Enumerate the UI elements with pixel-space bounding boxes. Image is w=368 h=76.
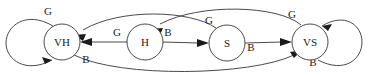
edge-h-to-vh <box>80 38 127 46</box>
edge-label-vh-self: G <box>44 5 52 17</box>
node-vs[interactable]: VS <box>292 24 328 60</box>
vh-to-vs-path <box>74 55 294 72</box>
node-h-label: H <box>141 36 149 48</box>
node-vh-label: VH <box>54 36 70 48</box>
edge-vh-to-vs <box>74 50 302 72</box>
state-transition-diagram: G G B G B B G <box>0 0 368 76</box>
node-s[interactable]: S <box>209 25 245 61</box>
h-to-s-path <box>163 42 199 43</box>
node-vs-label: VS <box>303 36 317 48</box>
vs-to-h-path <box>160 9 301 25</box>
node-vh[interactable]: VH <box>44 24 80 60</box>
edge-label-vh-to-vs: B <box>82 53 89 65</box>
s-to-vs-arrowhead <box>280 38 292 46</box>
node-s-label: S <box>224 37 230 49</box>
edge-h-to-s <box>163 39 209 47</box>
edge-label-h-to-s: B <box>164 26 171 38</box>
h-to-s-arrowhead <box>197 39 209 47</box>
edge-label-h-to-vh: G <box>113 26 121 38</box>
edge-label-s-to-vh: G <box>205 14 213 26</box>
node-h[interactable]: H <box>127 24 163 60</box>
diagram-canvas: G G B G B B G <box>0 0 368 76</box>
edge-label-s-to-vs: B <box>247 41 254 53</box>
